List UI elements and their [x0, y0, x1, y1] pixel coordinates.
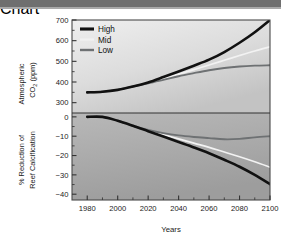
co2-reef-calcification-chart: 300400500600700 0−10−20−30−40 1980200020…: [0, 0, 281, 238]
legend-label-low: Low: [98, 46, 113, 55]
x-tick-label: 2060: [201, 204, 218, 213]
x-tick-label: 1980: [79, 204, 96, 213]
y-axis-title-co2: Atmospheric CO2 (ppm): [17, 62, 38, 104]
x-tick-label: 2100: [262, 204, 279, 213]
y-axis-title-calcification: % Reduction of Reef Calcification: [17, 131, 37, 189]
y-axis-title-calcification-line2: Reef Calcification: [28, 131, 37, 189]
figure-container: 300400500600700 0−10−20−30−40 1980200020…: [0, 0, 281, 238]
top-border-bar: [0, 0, 281, 7]
legend-label-mid: Mid: [98, 36, 112, 45]
y-tick-label: 700: [56, 16, 69, 25]
y-axis-title-calcification-line1: % Reduction of: [17, 134, 26, 185]
x-axis-title: Years: [161, 225, 181, 234]
top-border-shade: [0, 7, 281, 9]
x-tick-label: 2020: [140, 204, 157, 213]
y-tick-label: 600: [56, 36, 69, 45]
top-panel-tick-labels: 300400500600700: [56, 16, 69, 108]
x-tick-label: 2000: [109, 204, 126, 213]
bottom-panel-tick-labels: 0−10−20−30−40: [56, 113, 69, 199]
y-tick-label: −30: [56, 171, 69, 180]
x-tick-label: 2080: [231, 204, 248, 213]
y-tick-label: 400: [56, 78, 69, 87]
y-tick-label: −40: [56, 190, 69, 199]
x-tick-label: 2040: [170, 204, 187, 213]
y-axis-title-co2-line1: Atmospheric: [17, 63, 26, 104]
y-tick-label: −10: [56, 132, 69, 141]
chart-legend: HighMidLow: [80, 25, 115, 55]
y-tick-label: 0: [64, 113, 68, 122]
y-axis-title-co2-line2: CO2 (ppm): [28, 62, 38, 97]
y-tick-label: 500: [56, 57, 69, 66]
x-axis-tick-labels: 1980200020202040206020802100: [79, 204, 279, 213]
legend-label-high: High: [98, 25, 115, 34]
y-tick-label: 300: [56, 98, 69, 107]
y-tick-label: −20: [56, 151, 69, 160]
